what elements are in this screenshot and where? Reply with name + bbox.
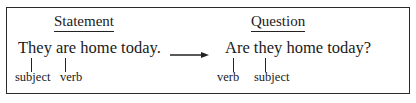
statement-label-verb: verb (60, 70, 82, 84)
question-sentence: Are they home today? (225, 39, 371, 57)
statement-label-subject: subject (15, 70, 50, 84)
question-heading: Question (251, 13, 305, 32)
statement-sentence: They are home today. (18, 39, 161, 57)
statement-heading: Statement (54, 13, 114, 32)
arrow-right-icon (170, 51, 210, 59)
question-label-subject: subject (254, 70, 289, 84)
question-label-verb: verb (217, 70, 239, 84)
